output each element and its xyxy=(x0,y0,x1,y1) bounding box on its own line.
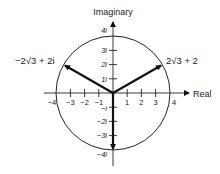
x-tick-label: 3 xyxy=(154,98,158,107)
y-tick-label: −2i xyxy=(97,117,108,126)
real-axis-label: Real xyxy=(193,89,212,99)
x-tick-label: 2 xyxy=(139,98,143,107)
y-tick-label: −4i xyxy=(97,150,108,159)
vector-right xyxy=(113,66,161,94)
x-tick-label: −4 xyxy=(48,98,57,107)
left-vector-label: −2√3 + 2i xyxy=(15,55,55,66)
y-tick-label: 4i xyxy=(101,26,107,35)
x-tick-label: 1 xyxy=(125,98,129,107)
x-tick-label: −2 xyxy=(80,98,89,107)
y-tick-label: 3i xyxy=(101,46,107,55)
y-tick-label: −3i xyxy=(97,131,108,140)
y-tick-label: −i xyxy=(101,104,107,113)
imaginary-axis-label: Imaginary xyxy=(93,7,133,17)
x-tick-label: −3 xyxy=(66,98,75,107)
y-tick-label: 2i xyxy=(100,60,107,69)
x-tick-label: 4 xyxy=(172,98,176,107)
complex-plane-diagram: Imaginary Real −2√3 + 2i 2√3 + 2 −4 −3 −… xyxy=(0,0,220,174)
right-vector-label: 2√3 + 2 xyxy=(166,55,198,66)
y-tick-label: 1i xyxy=(101,75,107,84)
